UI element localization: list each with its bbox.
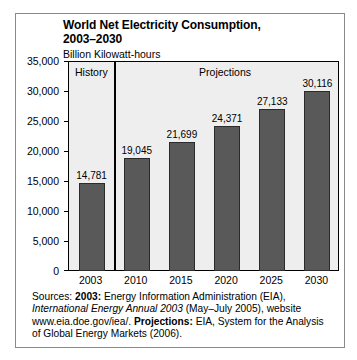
y-tick-label: 15,000	[27, 176, 59, 186]
source-note-run: Projections:	[134, 316, 193, 327]
y-tick-mark	[64, 270, 68, 271]
figure-card: World Net Electricity Consumption, 2003–…	[15, 13, 345, 348]
bar	[214, 126, 240, 271]
x-tick-label: 2025	[260, 274, 283, 286]
source-note-run: 2003:	[75, 291, 101, 302]
x-tick-label: 2015	[169, 274, 192, 286]
y-tick-label: 25,000	[27, 116, 59, 126]
title-block: World Net Electricity Consumption, 2003–…	[63, 18, 335, 61]
y-tick-label: 5,000	[33, 236, 59, 246]
bar	[79, 183, 105, 271]
x-tick-label: 2010	[124, 274, 147, 286]
bar-value-label: 27,133	[250, 96, 294, 107]
bar-value-label: 19,045	[115, 145, 159, 156]
bar-value-label: 30,116	[295, 78, 339, 89]
y-tick-label: 30,000	[27, 86, 59, 96]
band-label-projections: Projections	[199, 66, 251, 78]
history-projections-divider	[114, 62, 116, 270]
y-tick-mark	[64, 211, 68, 212]
source-note-run: Sources:	[32, 291, 75, 302]
bar	[304, 91, 330, 271]
y-tick-label: 10,000	[27, 206, 59, 216]
bar	[169, 142, 195, 271]
y-tick-label: 35,000	[27, 56, 59, 66]
y-tick-mark	[64, 151, 68, 152]
y-tick-mark	[64, 121, 68, 122]
bar-value-label: 24,371	[205, 113, 249, 124]
source-note-run: Energy Information Administration (EIA),	[101, 291, 286, 302]
chart-title: World Net Electricity Consumption, 2003–…	[63, 18, 335, 46]
bar-value-label: 21,699	[160, 129, 204, 140]
bar	[259, 109, 285, 271]
y-tick-label: 0	[53, 266, 59, 276]
plot-region: 05,00010,00015,00020,00025,00030,00035,0…	[16, 61, 346, 301]
chart-subtitle: Billion Kilowatt-hours	[63, 48, 335, 61]
y-tick-mark	[64, 91, 68, 92]
y-tick-mark	[64, 241, 68, 242]
y-tick-mark	[64, 61, 68, 62]
plot-area: 14,78119,04521,69924,37127,13330,116Hist…	[68, 61, 339, 271]
y-tick-mark	[64, 181, 68, 182]
band-label-history: History	[75, 66, 108, 78]
y-axis: 05,00010,00015,00020,00025,00030,00035,0…	[16, 61, 64, 271]
x-tick-label: 2020	[214, 274, 237, 286]
source-note-run: International Energy Annual 2003	[32, 303, 183, 314]
x-tick-label: 2030	[305, 274, 328, 286]
bar	[124, 158, 150, 271]
y-tick-label: 20,000	[27, 146, 59, 156]
source-note: Sources: 2003: Energy Information Admini…	[32, 291, 332, 341]
x-axis: 200320102015202020252030	[68, 274, 339, 290]
x-tick-label: 2003	[79, 274, 102, 286]
bar-value-label: 14,781	[70, 170, 114, 181]
